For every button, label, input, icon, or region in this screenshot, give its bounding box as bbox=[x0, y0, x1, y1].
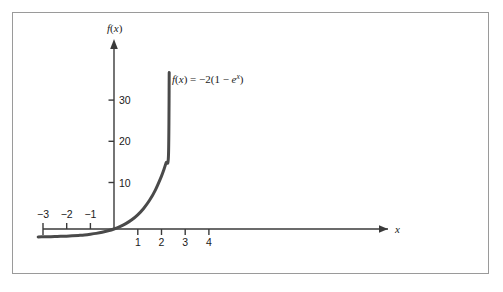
x-tick-label-neg1: −1 bbox=[84, 208, 96, 220]
function-equation-label: f(x) = −2(1 − ex) bbox=[172, 72, 244, 86]
x-tick-label-3: 3 bbox=[182, 236, 188, 248]
x-axis-arrow-right-icon bbox=[379, 225, 388, 233]
x-tick-label-neg2: −2 bbox=[61, 208, 73, 220]
equation-tail: ) bbox=[240, 73, 244, 86]
x-tick-group-negative: −3 −2 −1 bbox=[37, 208, 97, 229]
y-tick-label-30: 30 bbox=[119, 94, 131, 106]
equation-coefficient: −2(1 − bbox=[199, 73, 232, 86]
x-tick-label-2: 2 bbox=[159, 236, 165, 248]
y-tick-label-20: 20 bbox=[119, 135, 131, 147]
exponential-function-chart: x f(x) −3 −2 −1 1 bbox=[13, 13, 488, 273]
x-tick-label-4: 4 bbox=[206, 236, 212, 248]
y-tick-group: 10 20 30 bbox=[109, 94, 131, 188]
function-curve bbox=[38, 72, 169, 236]
plot-frame-border: x f(x) −3 −2 −1 1 bbox=[12, 12, 489, 274]
x-axis-label: x bbox=[394, 223, 400, 235]
equation-equals: = bbox=[187, 73, 199, 85]
y-axis-label: f(x) bbox=[107, 22, 123, 35]
y-axis-arrow-up-icon bbox=[110, 39, 118, 49]
y-tick-label-10: 10 bbox=[119, 177, 131, 189]
x-tick-label-neg3: −3 bbox=[37, 208, 49, 220]
x-tick-label-1: 1 bbox=[135, 236, 141, 248]
figure-container: x f(x) −3 −2 −1 1 bbox=[0, 0, 503, 292]
x-tick-group-positive: 1 2 3 4 bbox=[135, 229, 212, 248]
